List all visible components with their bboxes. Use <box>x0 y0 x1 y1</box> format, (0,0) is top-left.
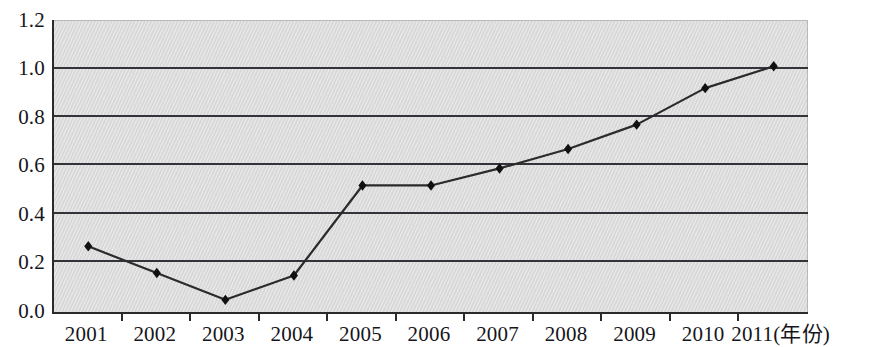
x-tick-label: 2004 <box>271 322 314 346</box>
x-tick <box>326 312 328 321</box>
data-point-marker <box>564 144 572 154</box>
y-tick-label: 1.2 <box>0 10 45 31</box>
data-point-marker <box>221 295 229 305</box>
x-tick <box>395 312 397 321</box>
y-tick-label: 0.2 <box>0 252 45 273</box>
data-point-marker <box>701 83 709 93</box>
data-series-line <box>54 20 808 312</box>
data-point-marker <box>153 268 161 278</box>
x-tick-label: 2010 <box>682 322 725 346</box>
x-tick <box>669 312 671 321</box>
x-tick <box>737 312 739 321</box>
x-tick <box>258 312 260 321</box>
y-tick-label: 0.6 <box>0 155 45 176</box>
y-tick-label: 0.8 <box>0 107 45 128</box>
x-tick <box>121 312 123 321</box>
y-tick-label: 1.0 <box>0 58 45 79</box>
data-point-marker <box>427 180 435 190</box>
x-tick-label: 2002 <box>133 322 176 346</box>
data-point-marker <box>633 119 641 129</box>
data-point-markers <box>84 61 778 305</box>
x-tick <box>189 312 191 321</box>
x-axis-ticks <box>52 312 808 321</box>
x-tick <box>463 312 465 321</box>
x-tick-label: 2007 <box>476 322 519 346</box>
x-tick-label: 2011(年份) <box>731 322 830 346</box>
x-tick-label: 2001 <box>65 322 108 346</box>
y-tick-label: 0.0 <box>0 301 45 322</box>
x-tick <box>532 312 534 321</box>
line-chart-figure: 1.2 1.0 0.8 0.6 0.4 0.2 0.0 200120022003… <box>0 0 881 347</box>
data-point-marker <box>770 61 778 71</box>
y-axis: 1.2 1.0 0.8 0.6 0.4 0.2 0.0 <box>0 0 48 347</box>
x-tick-label: 2009 <box>613 322 656 346</box>
data-point-marker <box>495 163 503 173</box>
x-tick-label: 2008 <box>545 322 588 346</box>
y-tick-label: 0.4 <box>0 204 45 225</box>
x-tick-label: 2003 <box>202 322 245 346</box>
x-tick <box>600 312 602 321</box>
plot-area <box>52 20 808 314</box>
data-point-marker <box>84 241 92 251</box>
x-tick-label: 2006 <box>408 322 451 346</box>
x-tick-label: 2005 <box>339 322 382 346</box>
x-axis: 2001200220032004200520062007200820092010… <box>0 322 881 347</box>
